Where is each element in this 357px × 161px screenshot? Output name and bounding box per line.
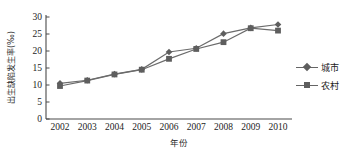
data-point-marker xyxy=(275,21,282,28)
data-point-marker xyxy=(139,67,145,73)
data-series-layer xyxy=(57,21,282,89)
data-point-marker xyxy=(221,39,227,45)
birth-defect-rate-line-chart: 出生缺陷发生率(‰) 30 25 20 15 10 5 0 2002200320… xyxy=(0,0,357,161)
chart-legend: 城市 农村 xyxy=(296,58,339,94)
legend-label: 城市 xyxy=(321,61,339,74)
x-axis-title: 年份 xyxy=(0,136,357,148)
x-tick-label: 2007 xyxy=(181,122,211,132)
data-point-marker xyxy=(57,83,63,89)
data-point-marker xyxy=(193,46,199,52)
legend-swatch-diamond-icon xyxy=(296,62,318,72)
series-rural xyxy=(57,25,281,89)
legend-swatch-square-icon xyxy=(296,80,318,90)
data-point-marker xyxy=(248,25,254,31)
x-tick-label: 2008 xyxy=(209,122,239,132)
x-tick-label: 2005 xyxy=(127,122,157,132)
legend-label: 农村 xyxy=(321,79,339,92)
x-tick-label: 2009 xyxy=(236,122,266,132)
axis-lines xyxy=(46,15,292,119)
legend-item-rural[interactable]: 农村 xyxy=(296,76,339,94)
x-tick-label: 2006 xyxy=(154,122,184,132)
x-tick-label: 2010 xyxy=(263,122,293,132)
legend-item-city[interactable]: 城市 xyxy=(296,58,339,76)
x-tick-label: 2003 xyxy=(72,122,102,132)
data-point-marker xyxy=(220,30,227,37)
series-city xyxy=(57,21,282,86)
data-point-marker xyxy=(275,28,281,34)
x-tick-label: 2004 xyxy=(100,122,130,132)
data-point-marker xyxy=(112,72,118,78)
data-point-marker xyxy=(84,78,90,84)
data-point-marker xyxy=(166,56,172,62)
data-point-marker xyxy=(166,49,173,56)
x-tick-label: 2002 xyxy=(45,122,75,132)
